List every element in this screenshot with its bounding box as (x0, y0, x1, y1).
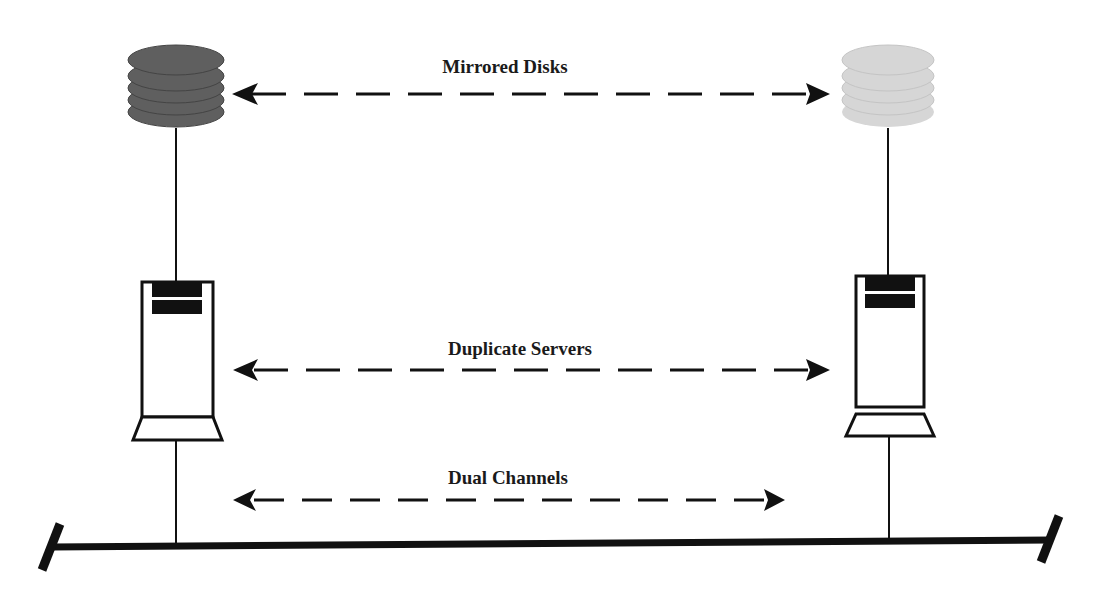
mirrored-disks-arrow (232, 83, 830, 105)
duplicate-servers-label: Duplicate Servers (448, 338, 592, 359)
server-right-icon (846, 276, 934, 436)
dual-channels-arrow (233, 489, 785, 511)
disk-stack-right-icon (842, 45, 934, 127)
mirrored-disks-label: Mirrored Disks (442, 56, 567, 77)
server-left-icon (133, 282, 222, 440)
network-bus (42, 516, 1059, 570)
duplicate-servers-arrow (233, 359, 830, 381)
dual-channels-label: Dual Channels (448, 467, 568, 488)
redundancy-diagram: Mirrored Disks Duplicate Servers Dual Ch… (0, 0, 1106, 590)
disk-stack-left-icon (128, 45, 224, 127)
